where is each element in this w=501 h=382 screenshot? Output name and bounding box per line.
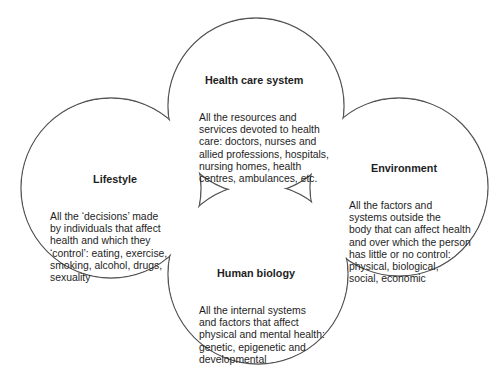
node-title: Health care system [199,74,361,86]
node-description: All the internal systems and factors tha… [199,305,349,366]
node-environment: Environment All the factors and systems … [349,138,489,298]
node-title: Environment [349,162,489,174]
node-human-biology: Human biology All the internal systems a… [199,243,349,378]
node-description: All the factors and systems outside the … [349,200,489,285]
node-description: All the resources and services devoted t… [199,112,361,185]
node-description: All the ‘decisions’ made by individuals … [50,211,180,284]
node-title: Lifestyle [50,173,180,185]
node-title: Human biology [199,267,349,279]
node-health-care-system: Health care system All the resources and… [199,50,361,197]
node-lifestyle: Lifestyle All the ‘decisions’ made by in… [50,149,180,296]
